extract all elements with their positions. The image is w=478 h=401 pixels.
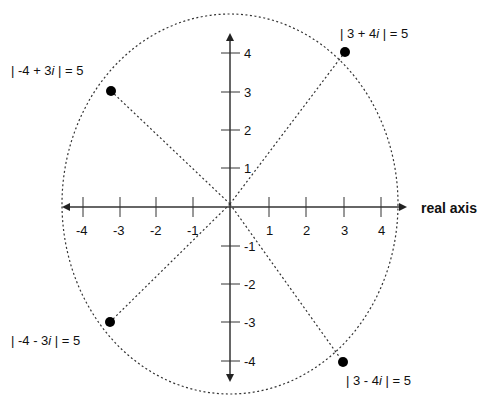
x-tick-label: 4 <box>378 223 385 238</box>
point-label-3-plus-4i: | 3 + 4i | = 5 <box>340 26 408 41</box>
down-arrow-icon <box>226 374 234 382</box>
x-tick-label: -3 <box>113 223 125 238</box>
y-tick-label: -3 <box>244 315 256 330</box>
x-tick-label: 1 <box>266 223 273 238</box>
y-tick-label: 2 <box>244 123 251 138</box>
point-label-neg4-plus-3i: | -4 + 3i | = 5 <box>11 63 84 78</box>
y-tick-label: -1 <box>244 239 256 254</box>
up-arrow-icon <box>226 33 234 41</box>
point-label-3-minus-4i: | 3 - 4i | = 5 <box>346 373 411 388</box>
axes <box>64 35 405 380</box>
x-tick-label: 3 <box>341 223 348 238</box>
y-tick-label: 4 <box>244 46 251 61</box>
point-neg4-minus-3i <box>105 317 115 327</box>
point-neg4-plus-3i <box>106 86 116 96</box>
y-tick-label: -2 <box>244 277 256 292</box>
right-arrow-icon <box>399 203 407 211</box>
x-tick-label: 2 <box>303 223 310 238</box>
y-tick-label: 3 <box>244 85 251 100</box>
y-tick-label: -4 <box>244 354 256 369</box>
point-3-plus-4i <box>340 47 350 57</box>
x-tick-label: -2 <box>150 223 162 238</box>
point-label-neg4-minus-3i: | -4 - 3i | = 5 <box>11 333 80 348</box>
x-tick-label: -1 <box>187 223 199 238</box>
y-tick-label: 1 <box>244 161 251 176</box>
x-tick-label: -4 <box>76 223 88 238</box>
left-arrow-icon <box>62 203 70 211</box>
real-axis-label: real axis <box>421 200 477 216</box>
point-3-minus-4i <box>338 357 348 367</box>
